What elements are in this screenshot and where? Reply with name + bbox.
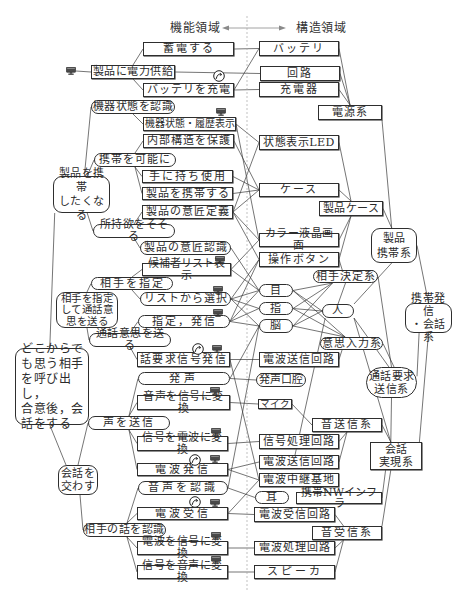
monitor-icon: [213, 286, 223, 294]
cycle-icon: [189, 496, 201, 508]
monitor-icon: [213, 309, 223, 317]
monitor-icon: [210, 455, 220, 463]
monitor-icon: [211, 428, 221, 436]
monitor-icon: [210, 499, 220, 507]
cycle-icon: [192, 343, 204, 355]
cycle-icon: [213, 70, 225, 82]
monitor-icon: [211, 532, 221, 540]
monitor-icon: [210, 387, 220, 395]
function-structure-diagram: 機能領域 構造領域 製品に電力供給 蓄電する バッテリを充電 機器状態を認識 機…: [0, 0, 474, 596]
monitor-icon: [211, 556, 221, 564]
bidirectional-arrow-icon: [222, 26, 286, 31]
domain-divider: [0, 0, 474, 596]
cycle-icon: [189, 454, 201, 466]
monitor-icon: [216, 108, 226, 116]
monitor-icon: [212, 345, 222, 353]
monitor-icon: [66, 67, 76, 75]
monitor-icon: [215, 256, 225, 264]
